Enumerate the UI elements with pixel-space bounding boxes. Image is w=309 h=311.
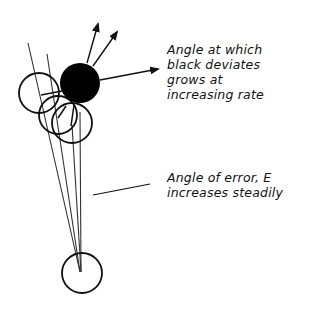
cue-ball <box>62 253 102 293</box>
deviation-annotation-line-1: Angle at which <box>167 42 264 57</box>
deviation-annotation-line-4: increasing rate <box>167 87 264 102</box>
deviation-arrow-1 <box>87 24 98 63</box>
deviation-arrows <box>87 24 158 80</box>
error-annotation-line-2: increases steadily <box>167 185 283 200</box>
deviation-arrow-2 <box>93 32 117 66</box>
error-annotation: Angle of error, E increases steadily <box>167 170 283 200</box>
aim-line-4 <box>80 112 81 272</box>
deviation-annotation-line-3: grows at <box>167 72 264 87</box>
error-annotation-line-1: Angle of error, E <box>167 170 283 185</box>
deviation-annotation: Angle at which black deviates grows at i… <box>167 42 264 102</box>
black-ball <box>60 63 100 103</box>
deviation-annotation-line-2: black deviates <box>167 57 264 72</box>
error-pointer-line <box>93 184 150 195</box>
deviation-arrow-3 <box>100 69 158 80</box>
